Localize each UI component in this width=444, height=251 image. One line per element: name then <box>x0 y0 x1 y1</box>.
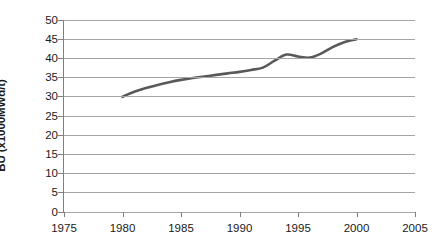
y-tick-label: 10 <box>26 167 58 179</box>
x-tick-mark <box>64 212 65 217</box>
y-tick-mark <box>58 58 63 59</box>
y-axis-title: BU (x1000MWd/t) <box>0 0 22 251</box>
y-tick-mark <box>58 39 63 40</box>
y-tick-label: 0 <box>26 206 58 218</box>
y-tick-label: 35 <box>26 71 58 83</box>
gridline-horizontal <box>64 173 415 174</box>
x-tick-label: 1975 <box>39 222 89 234</box>
y-tick-mark <box>58 96 63 97</box>
y-tick-mark <box>58 135 63 136</box>
x-tick-label: 1990 <box>215 222 265 234</box>
y-axis-title-label: BU (x1000MWd/t) <box>0 79 7 171</box>
x-tick-label: 1995 <box>273 222 323 234</box>
y-tick-label: 5 <box>26 186 58 198</box>
y-tick-label: 50 <box>26 14 58 26</box>
gridline-horizontal <box>64 154 415 155</box>
plot-area <box>64 20 415 212</box>
gridline-horizontal <box>64 20 415 21</box>
x-axis-tick-labels: 1975198019851990199520002005 <box>0 222 444 240</box>
y-tick-mark <box>58 116 63 117</box>
y-tick-mark <box>58 154 63 155</box>
y-tick-label: 30 <box>26 90 58 102</box>
y-tick-mark <box>58 192 63 193</box>
x-tick-mark <box>181 212 182 217</box>
gridline-horizontal <box>64 192 415 193</box>
x-tick-mark <box>415 212 416 217</box>
y-tick-mark <box>58 173 63 174</box>
x-tick-mark <box>357 212 358 217</box>
x-tick-mark <box>240 212 241 217</box>
y-tick-mark <box>58 77 63 78</box>
y-tick-label: 40 <box>26 52 58 64</box>
x-tick-label: 1980 <box>98 222 148 234</box>
gridline-horizontal <box>64 77 415 78</box>
y-tick-label: 45 <box>26 33 58 45</box>
gridline-horizontal <box>64 58 415 59</box>
y-tick-mark <box>58 20 63 21</box>
y-tick-label: 15 <box>26 148 58 160</box>
x-tick-label: 2005 <box>390 222 440 234</box>
y-tick-label: 20 <box>26 129 58 141</box>
x-tick-label: 1985 <box>156 222 206 234</box>
x-tick-label: 2000 <box>332 222 382 234</box>
gridline-horizontal <box>64 39 415 40</box>
gridline-horizontal <box>64 135 415 136</box>
x-tick-mark <box>298 212 299 217</box>
y-axis-tick-labels: 05101520253035404550 <box>26 13 58 213</box>
y-tick-label: 25 <box>26 110 58 122</box>
gridline-horizontal <box>64 96 415 97</box>
y-tick-mark <box>58 212 63 213</box>
line-chart: BU (x1000MWd/t) 05101520253035404550 197… <box>0 0 444 251</box>
gridline-horizontal <box>64 116 415 117</box>
x-tick-mark <box>123 212 124 217</box>
